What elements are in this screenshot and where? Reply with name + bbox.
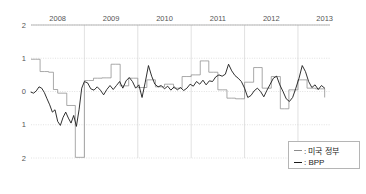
x-axis-tick-labels: 200820092010201120122013 xyxy=(49,14,333,23)
legend-line-icon-gov xyxy=(294,150,302,151)
legend-item-bpp: : BPP xyxy=(289,156,359,168)
svg-text:2011: 2011 xyxy=(210,14,226,23)
svg-text:2012: 2012 xyxy=(263,14,280,23)
svg-text:2: 2 xyxy=(22,154,26,163)
data-series-group xyxy=(31,59,325,157)
series-path-gov xyxy=(31,59,325,157)
svg-text:2: 2 xyxy=(22,21,26,30)
chart-container: 21012 200820092010201120122013 : 미국 정부 :… xyxy=(0,0,366,194)
y-axis-tick-labels: 21012 xyxy=(22,21,26,163)
svg-text:1: 1 xyxy=(22,120,26,129)
legend-line-icon-bpp xyxy=(294,162,302,163)
svg-text:2013: 2013 xyxy=(316,14,333,23)
svg-text:1: 1 xyxy=(22,54,26,63)
svg-text:0: 0 xyxy=(22,87,26,96)
horizontal-gridlines xyxy=(31,25,330,158)
chart-legend: : 미국 정부 : BPP xyxy=(288,141,360,169)
legend-label-bpp: : BPP xyxy=(304,158,324,167)
svg-text:2010: 2010 xyxy=(156,14,173,23)
legend-item-gov: : 미국 정부 xyxy=(289,144,359,156)
svg-text:2009: 2009 xyxy=(103,14,120,23)
legend-label-gov: : 미국 정부 xyxy=(304,145,339,156)
svg-text:2008: 2008 xyxy=(49,14,66,23)
